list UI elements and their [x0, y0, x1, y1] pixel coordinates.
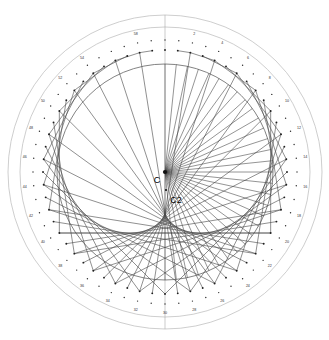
node-dot [53, 221, 55, 223]
tick-label: 10 [285, 99, 289, 103]
tick-dot [271, 94, 272, 95]
tick-label: 24 [246, 284, 250, 288]
tick-dot [293, 144, 294, 145]
tick-dot [164, 303, 165, 304]
node-dot [114, 60, 116, 62]
tick-dot [87, 65, 88, 66]
center-label-c: C [154, 175, 161, 185]
fan-spoke [165, 172, 245, 244]
chord-line [140, 51, 153, 53]
tick-label: 48 [29, 126, 33, 130]
node-dot [255, 89, 257, 91]
node-dot [92, 270, 94, 272]
cardioid-envelope-diagram: 5824681012141618202224262830323436384042… [0, 0, 329, 340]
node-dot [73, 89, 75, 91]
node-dot [270, 110, 272, 112]
node-dot [103, 65, 105, 67]
node-dot [48, 133, 50, 135]
tick-label: 28 [192, 308, 196, 312]
tick-dot [296, 185, 297, 186]
fan-spoke [165, 128, 264, 172]
node-dot [177, 50, 179, 52]
chord-line [256, 122, 277, 253]
tick-dot [66, 83, 67, 84]
tick-dot [124, 297, 125, 298]
node-dot [236, 72, 238, 74]
tick-label: 36 [80, 284, 84, 288]
tick-label: 26 [220, 299, 224, 303]
node-dot [139, 52, 141, 54]
chord-line [44, 159, 140, 291]
tick-dot [285, 225, 286, 226]
tick-dot [124, 46, 125, 47]
node-dot [114, 283, 116, 285]
center-point-c2 [165, 189, 167, 191]
chord-line [59, 66, 104, 111]
node-dot [214, 283, 216, 285]
node-dot [246, 262, 248, 264]
node-dot [263, 99, 265, 101]
tick-dot [137, 300, 138, 301]
node-dot [164, 293, 166, 295]
tick-dot [192, 300, 193, 301]
node-dot [58, 110, 60, 112]
tick-dot [205, 46, 206, 47]
tick-label: 6 [247, 56, 249, 60]
node-dot [164, 49, 166, 51]
chord-line [54, 122, 75, 253]
tick-label: 8 [269, 76, 271, 80]
node-dot [286, 171, 288, 173]
tick-dot [262, 83, 263, 84]
tick-dot [242, 278, 243, 279]
tick-dot [290, 212, 291, 213]
node-dot [126, 287, 128, 289]
node-dot [225, 277, 227, 279]
tick-dot [290, 131, 291, 132]
node-dot [139, 290, 141, 292]
chord-line [46, 147, 116, 284]
node-dot [151, 50, 153, 52]
tick-dot [218, 51, 219, 52]
tick-label: 22 [268, 264, 272, 268]
chord-line [237, 73, 281, 134]
tick-label: 34 [106, 299, 110, 303]
node-dot [263, 243, 265, 245]
tick-dot [230, 286, 231, 287]
node-dot [276, 221, 278, 223]
tick-dot [39, 131, 40, 132]
node-dot [82, 262, 84, 264]
center-label-c2: C2 [170, 195, 182, 205]
node-dot [283, 196, 285, 198]
node-dot [225, 65, 227, 67]
node-dot [270, 232, 272, 234]
chord-line [178, 51, 191, 53]
tick-dot [137, 42, 138, 43]
chord-line [152, 53, 190, 294]
node-dot [236, 270, 238, 272]
tick-dot [205, 297, 206, 298]
tick-label: 54 [80, 56, 84, 60]
tick-dot [262, 260, 263, 261]
chord-line [49, 210, 237, 271]
node-dot [42, 171, 44, 173]
node-dot [65, 243, 67, 245]
tick-dot [296, 158, 297, 159]
fan-spoke [165, 172, 237, 252]
node-dot [45, 196, 47, 198]
tick-label: 32 [134, 308, 138, 312]
chord-line [66, 210, 281, 244]
node-dot [280, 209, 282, 211]
node-dot [280, 133, 282, 135]
chord-line [44, 90, 75, 184]
node-dot [246, 80, 248, 82]
node-dot [151, 292, 153, 294]
tick-dot [76, 73, 77, 74]
tick-label: 14 [303, 155, 307, 159]
tick-dot [151, 303, 152, 304]
node-dot [255, 253, 257, 255]
tick-dot [253, 269, 254, 270]
tick-label: 2 [193, 32, 195, 36]
node-dot [43, 184, 45, 186]
tick-dot [279, 105, 280, 106]
node-dot [126, 55, 128, 57]
